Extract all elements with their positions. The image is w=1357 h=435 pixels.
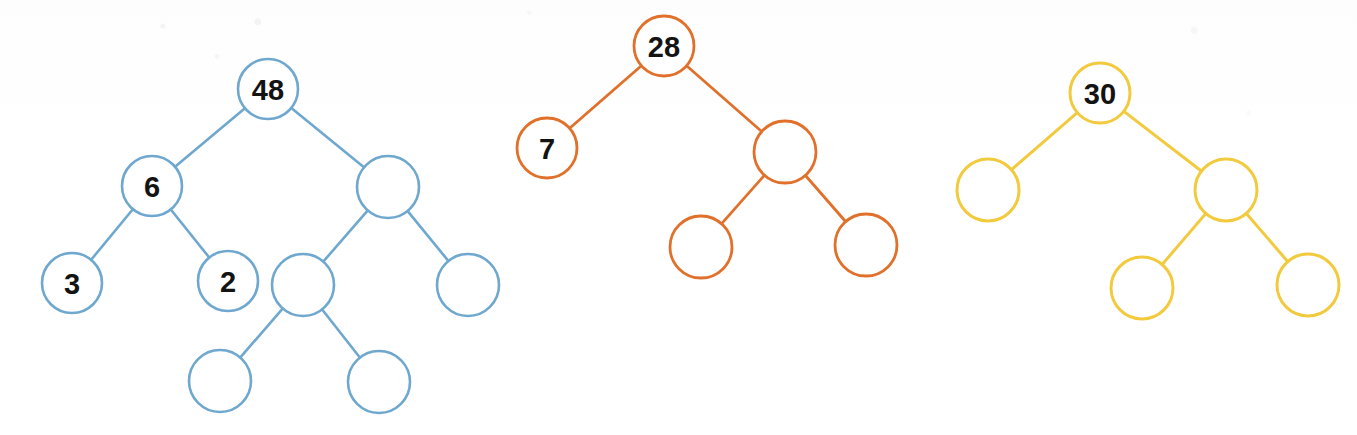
tree-node-empty[interactable] — [272, 254, 334, 316]
node-circle[interactable] — [1277, 254, 1339, 316]
tree-edge — [568, 65, 642, 130]
node-label: 3 — [64, 268, 80, 300]
tree-edge — [407, 210, 450, 262]
node-circle[interactable] — [754, 121, 816, 183]
tree-node-empty[interactable] — [437, 254, 499, 316]
tree-node-empty[interactable] — [357, 156, 419, 218]
node-circle[interactable] — [957, 159, 1019, 221]
tree-edge — [804, 174, 846, 223]
yellow-tree: 30 — [957, 63, 1339, 319]
binary-trees-figure: 4863228730 — [0, 0, 1357, 435]
node-circle[interactable] — [437, 254, 499, 316]
tree-edge — [321, 308, 361, 359]
tree-edge — [721, 174, 766, 225]
tree-edge — [90, 208, 134, 261]
node-circle[interactable] — [670, 216, 732, 278]
tree-node-empty[interactable] — [1277, 254, 1339, 316]
node-circle[interactable] — [357, 156, 419, 218]
tree-node-empty[interactable] — [348, 351, 410, 413]
tree-node-empty[interactable] — [957, 159, 1019, 221]
node-circle[interactable] — [835, 214, 897, 276]
tree-node-empty[interactable] — [1111, 257, 1173, 319]
tree-node-48[interactable]: 48 — [238, 59, 298, 119]
blue-tree-edges — [90, 107, 449, 359]
trees-svg-canvas: 4863228730 — [0, 0, 1357, 435]
node-circle[interactable] — [1195, 159, 1257, 221]
tree-node-empty[interactable] — [189, 350, 251, 412]
tree-node-empty[interactable] — [835, 214, 897, 276]
node-circle[interactable] — [348, 351, 410, 413]
node-circle[interactable] — [189, 350, 251, 412]
tree-node-28[interactable]: 28 — [634, 16, 694, 76]
tree-edge — [1161, 212, 1207, 265]
node-label: 48 — [252, 74, 284, 106]
tree-edge — [174, 107, 246, 167]
tree-node-empty[interactable] — [1195, 159, 1257, 221]
node-label: 30 — [1084, 78, 1116, 110]
tree-edge — [685, 65, 762, 133]
tree-edge — [322, 209, 368, 262]
node-circle[interactable] — [1111, 257, 1173, 319]
tree-node-7[interactable]: 7 — [517, 118, 577, 178]
tree-edge — [290, 107, 365, 168]
node-label: 6 — [144, 171, 160, 203]
tree-edge — [1010, 112, 1078, 171]
tree-node-6[interactable]: 6 — [122, 156, 182, 216]
node-label: 28 — [648, 31, 680, 63]
tree-node-30[interactable]: 30 — [1070, 63, 1130, 123]
tree-edge — [239, 307, 283, 358]
tree-node-3[interactable]: 3 — [42, 253, 102, 313]
node-label: 7 — [539, 133, 555, 165]
tree-edge — [1123, 110, 1203, 172]
tree-node-empty[interactable] — [754, 121, 816, 183]
tree-node-empty[interactable] — [670, 216, 732, 278]
tree-node-2[interactable]: 2 — [198, 251, 258, 311]
blue-tree: 48632 — [42, 59, 499, 413]
node-circle[interactable] — [272, 254, 334, 316]
orange-tree: 287 — [517, 16, 897, 278]
node-label: 2 — [220, 266, 236, 298]
tree-edge — [1245, 212, 1288, 262]
tree-edge — [170, 208, 210, 258]
